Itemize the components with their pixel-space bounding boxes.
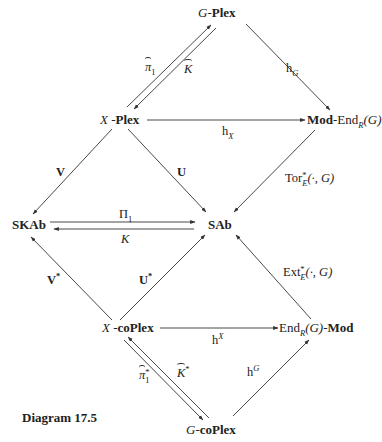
node-mod-end: Mod-EndR(G)	[307, 113, 382, 127]
label-V: V	[56, 165, 65, 179]
label-sym: π	[145, 60, 151, 74]
node-skab: SKAb	[12, 218, 46, 232]
node-prefix: X	[102, 320, 110, 335]
node-sep: -	[110, 320, 118, 335]
node-prefix: G	[186, 422, 195, 437]
node-pre: End	[279, 320, 300, 335]
label-k-star-hat: K*	[177, 366, 190, 380]
label-U-star: U*	[139, 273, 152, 287]
node-x-coplex: X -coPlex	[102, 321, 154, 335]
label-arg: (·, G)	[306, 265, 333, 279]
node-main: Plex	[212, 5, 236, 20]
node-sab: SAb	[208, 218, 232, 232]
node-g-coplex: G-coPlex	[186, 423, 236, 437]
node-g-plex: G-Plex	[198, 6, 236, 20]
node-main: Mod	[307, 112, 333, 127]
label-h-upG: hG	[247, 365, 259, 379]
node-x-plex: X -Plex	[100, 113, 139, 127]
diagram-caption: Diagram 17.5	[22, 410, 97, 426]
label-h-X: hX	[222, 124, 233, 138]
node-arg: (G)	[363, 112, 381, 127]
arrow-U-star	[120, 235, 205, 320]
arrow-h-upG	[233, 340, 309, 416]
label-h-upX: hX	[212, 333, 223, 347]
node-main: Plex	[116, 112, 140, 127]
arrow-pi1-star-hat	[124, 340, 203, 420]
label-base: Ext	[283, 265, 300, 279]
label-sup: *	[185, 364, 189, 374]
label-sym: π	[139, 368, 145, 382]
node-main: coPlex	[200, 422, 236, 437]
label-sub: X	[228, 131, 233, 141]
label-ext: Ext*E(·, G)	[283, 265, 332, 281]
label-base: V	[47, 273, 56, 287]
label-k-hat: K	[184, 62, 192, 76]
label-sub: 1	[151, 67, 155, 77]
arrow-U	[128, 129, 206, 212]
label-U: U	[177, 165, 186, 179]
node-sep: -	[108, 112, 116, 127]
label-sup: *	[56, 271, 60, 281]
label-V-star: V*	[47, 273, 60, 287]
label-sub: G	[292, 68, 298, 78]
node-main: Mod	[328, 320, 354, 335]
label-sub: 1	[145, 376, 149, 384]
label-sup: G	[253, 363, 259, 373]
node-sep: -End	[333, 112, 358, 127]
label-tor: Tor*E(·, G)	[285, 171, 334, 187]
node-end-mod: EndR(G)-Mod	[279, 321, 354, 335]
label-sup: *	[148, 271, 152, 281]
label-pi1-star-hat: π*1	[139, 368, 150, 384]
node-prefix: X	[100, 112, 108, 127]
label-base: Tor	[285, 171, 302, 185]
label-sup: X	[218, 331, 223, 341]
label-sym: K	[177, 366, 185, 380]
label-base: Π	[119, 207, 128, 221]
arrow-V	[33, 129, 112, 214]
label-base: U	[139, 273, 148, 287]
label-K: K	[121, 232, 129, 246]
node-main: coPlex	[118, 320, 154, 335]
node-prefix: G	[198, 5, 207, 20]
label-h-G: hG	[286, 61, 298, 75]
label-arg: (·, G)	[307, 171, 334, 185]
arrow-V-star	[31, 237, 112, 320]
label-pi1-hat: π1	[145, 60, 156, 74]
node-arg: (G)-	[305, 320, 327, 335]
label-sym: K	[184, 62, 192, 76]
label-sub: 1	[128, 214, 132, 224]
label-Pi1: Π1	[119, 207, 132, 221]
arrow-pi1-hat	[127, 25, 211, 107]
